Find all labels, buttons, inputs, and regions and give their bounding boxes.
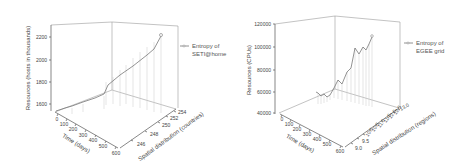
z-tick-1800: 1800 <box>36 79 47 85</box>
x-tick-500: 500 <box>99 143 108 149</box>
y-tick-248: 248 <box>150 131 159 137</box>
floor-back-right-edge <box>112 90 176 109</box>
y-tick-254: 254 <box>178 109 187 115</box>
legend-egee: Entropy of EGEE grid <box>404 40 444 54</box>
legend-label-line2: EGEE grid <box>416 48 444 54</box>
floor-back-right-edge <box>335 89 399 108</box>
x-tick-400: 400 <box>89 137 98 143</box>
series-end-marker <box>160 34 163 37</box>
x-axis <box>280 114 343 147</box>
x-tick-300: 300 <box>79 132 88 138</box>
x-tick-600: 600 <box>336 148 345 154</box>
y-tick-246: 246 <box>137 141 146 147</box>
x-tick-100: 100 <box>60 121 69 127</box>
legend-label-line2: SETI@home <box>192 51 227 57</box>
chart-egee: 120000 100000 80000 60000 40000 Resource… <box>246 16 444 156</box>
z-tick-40000: 40000 <box>257 110 271 116</box>
x-tick-400: 400 <box>313 136 322 142</box>
charts-canvas: 2200 2000 1800 1600 Resources (hosts in … <box>0 0 466 166</box>
legend-label-line1: Entropy of <box>416 40 444 46</box>
series-egee <box>316 37 372 97</box>
z-tick-80000: 80000 <box>257 67 271 73</box>
x-tick-200: 200 <box>293 126 302 132</box>
y-tick-250: 250 <box>162 122 171 128</box>
series-end-marker <box>371 35 374 38</box>
z-tick-100000: 100000 <box>254 44 271 50</box>
z-axis-label: Resources (CPUs) <box>246 45 252 95</box>
z-tick-2200: 2200 <box>36 34 47 40</box>
x-tick-0: 0 <box>281 116 284 122</box>
x-tick-0: 0 <box>56 116 59 122</box>
chart-seti: 2200 2000 1800 1600 Resources (hosts in … <box>25 22 227 162</box>
x-tick-300: 300 <box>303 131 312 137</box>
floor-back-left-edge <box>279 89 335 113</box>
z-axis-label: Resources (hosts in thousands) <box>25 26 31 110</box>
y-tick-9-0: 9.0 <box>355 145 362 151</box>
z-tick-1600: 1600 <box>36 101 47 107</box>
x-tick-500: 500 <box>323 141 332 147</box>
z-tick-60000: 60000 <box>257 89 271 95</box>
y-tick-9-5: 9.5 <box>362 138 369 144</box>
z-tick-2000: 2000 <box>36 57 47 63</box>
x-axis <box>55 112 118 148</box>
x-tick-200: 200 <box>69 126 78 132</box>
legend-label-line1: Entropy of <box>192 43 220 49</box>
back-top-edge <box>51 22 178 26</box>
z-ticks: 120000 100000 80000 60000 40000 <box>254 21 275 116</box>
legend-seti: Entropy of SETI@home <box>180 43 227 57</box>
back-top-edge <box>275 16 400 24</box>
y-tick-252: 252 <box>170 115 179 121</box>
z-tick-120000: 120000 <box>254 21 271 27</box>
z-ticks: 2200 2000 1800 1600 <box>36 34 51 107</box>
drop-lines <box>72 36 161 114</box>
x-tick-600: 600 <box>112 150 121 156</box>
